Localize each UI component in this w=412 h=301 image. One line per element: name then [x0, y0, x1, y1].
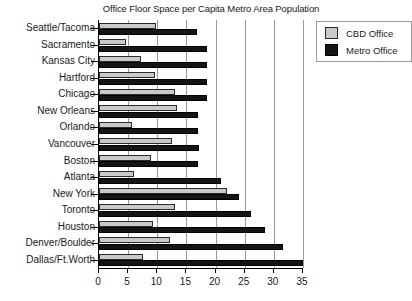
y-axis-category-label: Boston	[64, 156, 95, 166]
bar-group	[99, 20, 303, 38]
bar-group	[99, 136, 303, 154]
x-axis-tick-label: 5	[115, 276, 139, 287]
bar-group	[99, 169, 303, 187]
chart-title: Office Floor Space per Capita Metro Area…	[96, 3, 326, 14]
bar-group	[99, 119, 303, 137]
bar-group	[99, 235, 303, 253]
bar-group	[99, 202, 303, 220]
bar-metro-office	[99, 46, 207, 52]
bar-group	[99, 218, 303, 236]
y-axis-category-label: Orlando	[59, 122, 95, 132]
legend-label-cbd: CBD Office	[346, 28, 393, 39]
legend-label-metro: Metro Office	[346, 45, 398, 56]
x-axis-tick	[98, 269, 99, 273]
bar-cbd-office	[99, 188, 227, 194]
legend-swatch-cbd	[325, 27, 338, 39]
y-axis-category-label: Denver/Boulder	[26, 238, 95, 248]
bar-metro-office	[99, 62, 207, 68]
y-axis-category-label: Kansas City	[42, 56, 95, 66]
bar-cbd-office	[99, 72, 155, 78]
x-axis-tick	[215, 269, 216, 273]
bar-metro-office	[99, 227, 265, 233]
y-axis-category-label: New Orleans	[37, 106, 95, 116]
bar-group	[99, 103, 303, 121]
bar-metro-office	[99, 194, 239, 200]
bar-metro-office	[99, 145, 199, 151]
plot-area	[98, 20, 303, 268]
x-axis-tick	[302, 269, 303, 273]
bar-metro-office	[99, 95, 207, 101]
bar-cbd-office	[99, 105, 177, 111]
x-axis-tick-label: 25	[232, 276, 256, 287]
y-axis-category-label: Dallas/Ft.Worth	[26, 255, 95, 265]
x-axis-tick	[244, 269, 245, 273]
x-axis-tick	[156, 269, 157, 273]
bar-cbd-office	[99, 221, 153, 227]
bar-group	[99, 152, 303, 170]
bar-group	[99, 86, 303, 104]
x-axis-tick-label: 15	[173, 276, 197, 287]
x-axis-tick-label: 30	[261, 276, 285, 287]
y-axis-category-label: Vancouver	[48, 139, 95, 149]
x-axis-tick-label: 20	[203, 276, 227, 287]
bar-group	[99, 37, 303, 55]
y-axis-category-label: Seattle/Tacoma	[26, 23, 95, 33]
bar-cbd-office	[99, 171, 134, 177]
y-axis-category-label: Atlanta	[64, 172, 95, 182]
x-axis-tick	[185, 269, 186, 273]
bar-cbd-office	[99, 122, 132, 128]
bar-cbd-office	[99, 56, 141, 62]
bar-metro-office	[99, 211, 251, 217]
bar-cbd-office	[99, 39, 126, 45]
bar-metro-office	[99, 112, 198, 118]
bar-cbd-office	[99, 138, 172, 144]
x-axis-tick	[127, 269, 128, 273]
bar-metro-office	[99, 128, 198, 134]
bar-cbd-office	[99, 254, 143, 260]
y-axis-category-label: Sacramento	[41, 40, 95, 50]
x-axis-tick	[273, 269, 274, 273]
gridline	[303, 20, 304, 268]
bar-cbd-office	[99, 155, 151, 161]
bar-group	[99, 70, 303, 88]
y-axis-category-label: Houston	[58, 222, 95, 232]
bar-group	[99, 53, 303, 71]
bar-cbd-office	[99, 89, 175, 95]
legend-swatch-metro	[325, 44, 338, 56]
x-axis-tick-label: 10	[144, 276, 168, 287]
x-axis-tick-label: 0	[86, 276, 110, 287]
bar-metro-office	[99, 260, 303, 266]
bar-group	[99, 185, 303, 203]
bar-metro-office	[99, 79, 207, 85]
bar-cbd-office	[99, 237, 170, 243]
bar-cbd-office	[99, 23, 156, 29]
chart-legend: CBD Office Metro Office	[316, 21, 412, 62]
y-axis-category-label: Chicago	[58, 89, 95, 99]
bar-group	[99, 251, 303, 269]
y-axis-category-label: New York	[53, 189, 95, 199]
bar-metro-office	[99, 178, 221, 184]
y-axis-category-label: Hartford	[59, 73, 95, 83]
y-axis-category-label: Toronto	[62, 205, 95, 215]
bar-metro-office	[99, 29, 197, 35]
bar-metro-office	[99, 244, 283, 250]
x-axis-tick-label: 35	[290, 276, 314, 287]
bar-cbd-office	[99, 204, 175, 210]
bar-metro-office	[99, 161, 198, 167]
